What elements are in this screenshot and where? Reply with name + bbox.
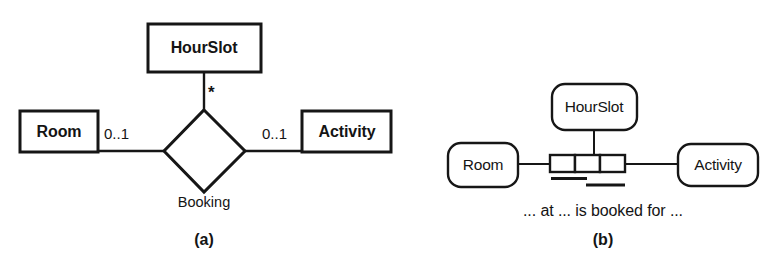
entity-label-room-b: Room [463,157,504,173]
role-box-2 [575,155,600,172]
entity-label-activity-b: Activity [694,157,742,173]
entity-label-room-a: Room [37,124,82,140]
figure-container: HourSlot Room Activity * 0..1 0..1 Booki… [0,0,775,277]
role-box-3 [600,155,625,172]
predicate-reading-b: ... at ... is booked for ... [523,203,683,219]
multiplicity-room: 0..1 [104,126,129,141]
multiplicity-activity: 0..1 [262,126,287,141]
relationship-label-booking: Booking [178,195,230,210]
panel-caption-a: (a) [194,232,214,248]
multiplicity-star-hourslot: * [208,84,215,101]
relationship-diamond-booking [164,110,245,192]
role-box-1 [550,155,575,172]
entity-label-hourslot-a: HourSlot [171,40,238,56]
panel-caption-b: (b) [593,232,613,248]
entity-label-hourslot-b: HourSlot [565,99,624,115]
entity-label-activity-a: Activity [319,124,376,140]
